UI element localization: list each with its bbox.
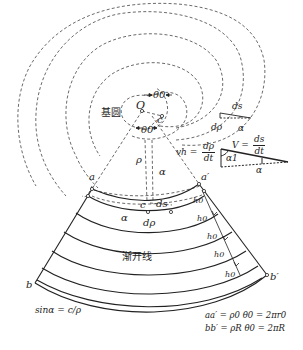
alpha-mid-label: α xyxy=(159,167,166,177)
theta0-top-label: θ0 xyxy=(153,90,165,100)
small-triangle-alpha: α xyxy=(238,124,244,133)
aa-prime-formula: aa′ = ρ0 θ0 = 2πr0 xyxy=(205,311,286,320)
base-circle-label: 基圆 xyxy=(101,108,121,118)
h0-label-4: h0 xyxy=(214,251,224,259)
h0-label-3: h0 xyxy=(207,233,217,241)
theta0-bottom-label: θ0 xyxy=(141,125,153,135)
small-triangle xyxy=(220,113,251,118)
ds-lower-label: ds xyxy=(156,199,168,209)
involute-label: 渐开线 xyxy=(122,252,152,262)
velocity-v-fraction: ds dt xyxy=(253,135,265,156)
small-triangle-ds: ds xyxy=(232,102,242,111)
involute-diagram: 基圆 O θ0 θ0 c ρ α a a′ b b′ c ds dρ α 渐开线… xyxy=(0,0,303,350)
velocity-vh-fraction: dρ dt xyxy=(202,142,215,163)
c-lower-label: c xyxy=(140,200,146,210)
velocity-v-label: V = xyxy=(232,141,249,150)
large-triangle-alpha: α xyxy=(256,166,262,175)
point-b-label: b xyxy=(26,280,32,290)
sin-alpha-formula: sinα = c/ρ xyxy=(35,306,81,315)
point-a-prime-label: a′ xyxy=(201,172,209,182)
h0-label-2: h0 xyxy=(197,215,207,223)
point-b-prime-label: b′ xyxy=(270,272,279,282)
c-near-center-label: c xyxy=(157,115,163,125)
large-triangle-alpha1: α1 xyxy=(226,154,238,163)
diagram-graphics xyxy=(0,0,303,350)
velocity-vh-label: vh = xyxy=(176,148,197,157)
drho-lower-label: dρ xyxy=(143,218,155,228)
h0-label-1: h0 xyxy=(193,197,203,205)
h0-label-5: h0 xyxy=(225,271,235,279)
small-triangle-drho: dρ xyxy=(211,123,222,132)
bb-prime-formula: bb′ = ρR θ0 = 2πR xyxy=(205,324,285,333)
alpha-lower-label: α xyxy=(121,213,128,223)
point-a-label: a xyxy=(89,172,95,182)
rho-label: ρ xyxy=(136,155,142,165)
center-label: O xyxy=(136,100,145,111)
